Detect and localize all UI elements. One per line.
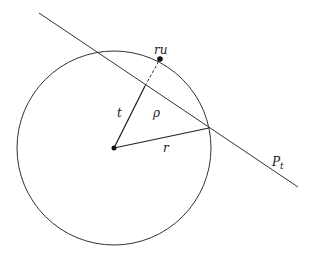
- label-t: t: [117, 106, 122, 120]
- plane-line: [39, 13, 298, 187]
- dashed-extension: [145, 59, 160, 86]
- diagram-canvas: ru t ρ r Pt: [0, 0, 313, 260]
- radius-r-segment: [114, 128, 209, 148]
- label-ru: ru: [154, 43, 167, 57]
- label-r: r: [163, 141, 170, 155]
- label-plane-subscript: t: [280, 161, 284, 171]
- label-rho: ρ: [152, 106, 160, 120]
- center-point: [112, 146, 117, 151]
- ru-point: [157, 56, 163, 62]
- label-plane: Pt: [271, 155, 284, 171]
